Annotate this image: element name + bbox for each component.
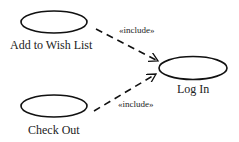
use-case-label-wish: Add to Wish List (10, 38, 92, 53)
stereotype-label-1: «include» (119, 25, 155, 35)
use-case-label-checkout: Check Out (28, 123, 80, 138)
use-case-check-out[interactable] (21, 95, 87, 117)
diagram-canvas (0, 0, 239, 142)
use-case-label-login: Log In (177, 82, 209, 97)
use-case-log-in[interactable] (159, 57, 227, 80)
use-case-add-to-wish-list[interactable] (21, 11, 87, 33)
stereotype-label-2: «include» (118, 99, 154, 109)
